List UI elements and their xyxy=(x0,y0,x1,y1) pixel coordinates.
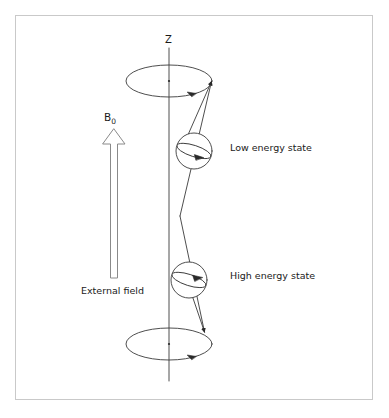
b0-field-label: B0 xyxy=(104,112,116,126)
low-energy-moment-vector-overlay xyxy=(189,82,212,134)
z-axis-label: Z xyxy=(165,35,172,45)
diagram-canvas: Z B0 External field Low energy state Hig… xyxy=(0,0,389,418)
b0-subscript: 0 xyxy=(111,117,116,126)
high-energy-state-label: High energy state xyxy=(230,271,315,281)
external-field-arrow xyxy=(103,129,125,278)
low-energy-state-label: Low energy state xyxy=(230,143,312,153)
external-field-label: External field xyxy=(81,286,144,296)
upper-rotation-arrowhead xyxy=(187,92,196,97)
upper-ellipse-center-dot xyxy=(168,80,170,82)
lower-rotation-arrowhead xyxy=(187,355,196,360)
lower-ellipse-center-dot xyxy=(168,343,170,345)
spin-precession-diagram xyxy=(0,0,389,418)
